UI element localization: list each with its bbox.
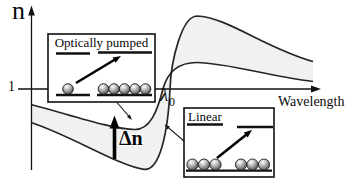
figure-canvas <box>0 0 352 185</box>
inset-pumped-title: Optically pumped <box>48 36 155 49</box>
inset-linear-title: Linear <box>188 110 222 123</box>
resonance-wavelength-subscript: 0 <box>169 96 175 108</box>
dispersion-figure: n 1 λ 0 Wavelength Δn Optically pumped L… <box>0 0 352 185</box>
y-tick-label: 1 <box>8 80 15 94</box>
x-axis-arrowhead-icon <box>311 86 321 93</box>
y-axis-label: n <box>12 0 25 24</box>
y-axis-arrowhead-icon <box>28 6 35 16</box>
pointer-pumped-curve-icon <box>117 103 132 121</box>
pointer-linear-curve-icon <box>165 125 185 142</box>
x-axis-label: Wavelength <box>278 95 345 109</box>
resonance-wavelength-label: λ <box>160 85 168 104</box>
delta-n-label: Δn <box>119 128 143 148</box>
